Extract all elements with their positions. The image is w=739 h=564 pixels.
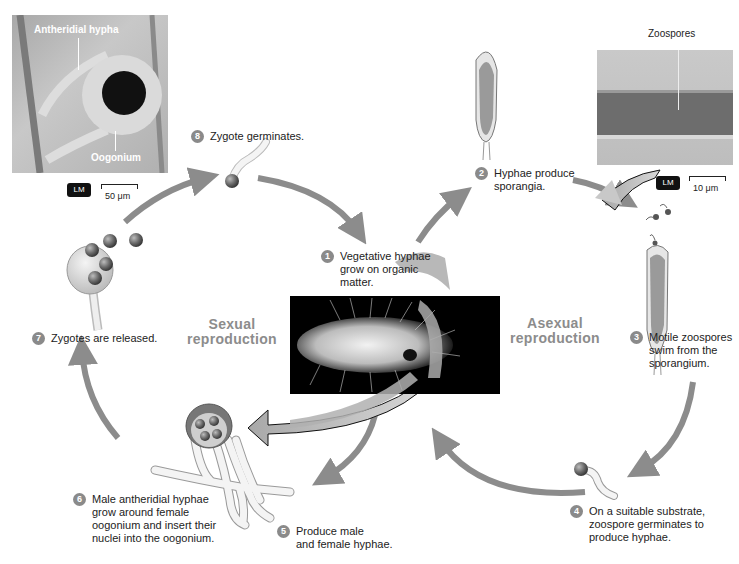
lm-badge-asexual: LM [656, 176, 680, 190]
step-7: 7 Zygotes are released. [32, 332, 157, 345]
sporangium-section [597, 90, 733, 139]
sporangium-top [476, 52, 497, 160]
scale-bar-asexual [689, 176, 726, 181]
step-text: Motile zoospores swim from the sporangiu… [649, 331, 732, 370]
step-8: 8 Zygote germinates. [191, 130, 304, 143]
step-number-badge: 5 [277, 525, 290, 538]
step-number-badge: 3 [630, 331, 643, 344]
micrograph-zoospores [597, 50, 733, 165]
step-text: Zygotes are released. [51, 332, 157, 345]
step-5: 5 Produce male and female hyphae. [277, 525, 393, 551]
pointer-line [78, 38, 79, 70]
step-text: Produce male and female hyphae. [296, 525, 393, 551]
scale-label-asexual: 10 μm [693, 183, 718, 193]
step-1: 1 Vegetative hyphae grow on organic matt… [321, 250, 431, 289]
oogonium-with-zygotes [67, 233, 143, 330]
step-number-badge: 2 [475, 167, 488, 180]
step-text: Male antheridial hyphae grow around fema… [92, 493, 216, 545]
label-antheridial-hypha: Antheridial hypha [34, 24, 118, 35]
pointer-line [678, 50, 679, 110]
step-text: On a suitable substrate, zoospore germin… [589, 505, 705, 544]
micrograph-oogonium: Antheridial hypha Oogonium [12, 15, 168, 173]
step-4: 4 On a suitable substrate, zoospore germ… [570, 505, 705, 544]
step-number-badge: 8 [191, 130, 204, 143]
step-number-badge: 6 [73, 493, 86, 506]
label-zoospores: Zoospores [648, 28, 695, 39]
scale-label-sexual: 50 μm [105, 191, 130, 201]
step-number-badge: 4 [570, 505, 583, 518]
step-text: Vegetative hyphae grow on organic matter… [340, 250, 431, 289]
step-6: 6 Male antheridial hyphae grow around fe… [73, 493, 216, 545]
step-2: 2 Hyphae produce sporangia. [475, 167, 575, 193]
step-3: 3 Motile zoospores swim from the sporang… [630, 331, 732, 370]
step-text: Hyphae produce sporangia. [494, 167, 575, 193]
label-asexual-reproduction: Asexual reproduction [510, 316, 600, 346]
micrograph-oogonium-drawing [12, 15, 168, 173]
step-number-badge: 7 [32, 332, 45, 345]
label-sexual-reproduction: Sexual reproduction [187, 317, 277, 347]
label-oogonium: Oogonium [91, 152, 141, 163]
step-text: Zygote germinates. [210, 130, 304, 143]
step-number-badge: 1 [321, 250, 334, 263]
pointer-line [115, 131, 116, 151]
lm-badge-sexual: LM [67, 183, 91, 197]
scale-bar-sexual [101, 184, 138, 189]
